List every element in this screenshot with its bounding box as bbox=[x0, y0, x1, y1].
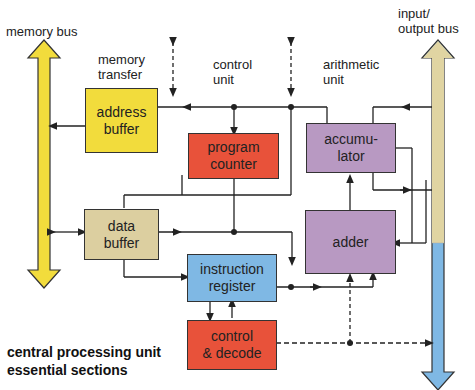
accumulator-box: accumu- lator bbox=[306, 123, 396, 173]
arithmetic-unit-label: arithmetic unit bbox=[323, 57, 379, 87]
io-bus-label: input/ output bus bbox=[398, 6, 459, 36]
program-counter-box: program counter bbox=[188, 133, 279, 179]
control-decode-label: control & decode bbox=[202, 328, 261, 362]
memory-bus-arrow bbox=[28, 40, 60, 288]
program-counter-label: program counter bbox=[207, 139, 259, 173]
control-unit-label: control unit bbox=[213, 57, 252, 87]
address-buffer-label: address buffer bbox=[97, 104, 147, 138]
instruction-register-box: instruction register bbox=[187, 254, 277, 302]
adder-label: adder bbox=[333, 234, 369, 251]
data-buffer-label: data buffer bbox=[104, 218, 140, 252]
memory-transfer-label: memory transfer bbox=[98, 52, 145, 82]
address-buffer-box: address buffer bbox=[85, 88, 158, 153]
memory-bus-label: memory bus bbox=[6, 24, 78, 39]
diagram-title: central processing unit essential sectio… bbox=[7, 343, 161, 379]
adder-box: adder bbox=[305, 210, 396, 274]
data-buffer-box: data buffer bbox=[84, 209, 159, 260]
io-bus-arrow bbox=[422, 40, 454, 390]
instruction-register-label: instruction register bbox=[200, 261, 264, 295]
control-decode-box: control & decode bbox=[187, 320, 277, 370]
accumulator-label: accumu- lator bbox=[324, 131, 378, 165]
